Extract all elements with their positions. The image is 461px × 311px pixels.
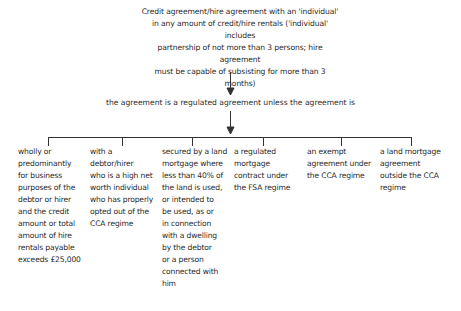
branch-line: the FSA regime — [234, 182, 290, 194]
branch-line: amount or total — [18, 218, 81, 230]
branch-line: for business — [18, 170, 81, 182]
branch-line: mortgage where — [162, 158, 227, 170]
branch-high-net-worth: with a debtor/hirer who is a high net wo… — [90, 146, 153, 230]
arrowhead-icon — [227, 127, 234, 134]
branch-line: opted out of the — [90, 206, 153, 218]
branch-line: connected with — [162, 266, 227, 278]
branch-line: debtor or hirer — [18, 194, 81, 206]
branch-line: who has properly — [90, 194, 153, 206]
branch-line: contract under — [234, 170, 290, 182]
branch-land-mortgage-40pct: secured by a land mortgage where less th… — [162, 146, 227, 290]
branch-line: debtor/hirer — [90, 158, 153, 170]
branch-line: purposes of the — [18, 182, 81, 194]
branch-line: in connection — [162, 218, 227, 230]
branch-line: the CCA regime — [307, 170, 371, 182]
branch-line: agreement — [380, 158, 441, 170]
branch-line: or a person — [162, 254, 227, 266]
branch-line: a regulated — [234, 146, 290, 158]
branch-line: an exempt — [307, 146, 371, 158]
branch-line: mortgage — [234, 158, 290, 170]
branch-line: CCA regime — [90, 218, 153, 230]
branch-line: a land mortgage — [380, 146, 441, 158]
branch-line: exceeds £25,000 — [18, 254, 81, 266]
branch-exempt-agreement: an exempt agreement under the CCA regime — [307, 146, 371, 182]
branch-line: predominantly — [18, 158, 81, 170]
branch-line: and the credit — [18, 206, 81, 218]
branch-line: worth individual — [90, 182, 153, 194]
branch-land-mortgage-outside-cca: a land mortgage agreement outside the CC… — [380, 146, 441, 194]
branch-line: rentals payable — [18, 242, 81, 254]
branch-line: wholly or — [18, 146, 81, 158]
branch-line: with a — [90, 146, 153, 158]
branch-line: outside the CCA — [380, 170, 441, 182]
branch-line: regime — [380, 182, 441, 194]
branch-regulated-mortgage: a regulated mortgage contract under the … — [234, 146, 290, 194]
branch-line: by the debtor — [162, 242, 227, 254]
arrowhead-icon — [227, 88, 234, 95]
branch-line: the land is used, — [162, 182, 227, 194]
branch-line: amount of hire — [18, 230, 81, 242]
branch-line: who is a high net — [90, 170, 153, 182]
branch-line: with a dwelling — [162, 230, 227, 242]
branch-business-purposes: wholly or predominantly for business pur… — [18, 146, 81, 266]
branch-line: him — [162, 278, 227, 290]
branch-line: be used, as or — [162, 206, 227, 218]
branch-line: secured by a land — [162, 146, 227, 158]
branch-line: less than 40% of — [162, 170, 227, 182]
branch-line: or intended to — [162, 194, 227, 206]
branch-line: agreement under — [307, 158, 371, 170]
middle-node: the agreement is a regulated agreement u… — [0, 97, 461, 109]
